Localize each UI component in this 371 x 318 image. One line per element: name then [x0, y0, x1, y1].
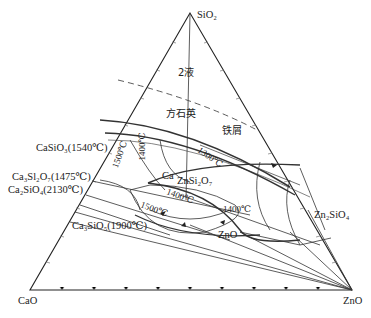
- isotherm-1400-a: 1400℃: [138, 132, 147, 160]
- ternary-diagram: SiO₂ CaO ZnO 2液 方石英 铁屑 CaSiO₃(1540℃) Ca₃…: [0, 0, 371, 318]
- label-ca3sio5: Ca₃SiO₅(1900℃): [72, 221, 147, 232]
- label-casio3: CaSiO₃(1540℃): [36, 143, 107, 154]
- region-cristobalite: 方石英: [166, 109, 196, 119]
- vertex-zno: ZnO: [343, 296, 362, 307]
- vertex-cao: CaO: [18, 296, 37, 307]
- tick-marks: [46, 42, 336, 290]
- label-znsi2o7: ZnSi₂O₇: [177, 176, 212, 187]
- label-ca2sio4: Ca₂SiO₄(2130℃): [8, 185, 83, 196]
- label-zno-field: ZnO: [218, 230, 237, 241]
- region-two-liquid: 2液: [178, 68, 194, 78]
- vertex-sio2: SiO₂: [197, 10, 217, 21]
- label-ca3si2o7: Ca₃Sl₂O₇(1475℃): [12, 172, 91, 183]
- two-liquid-line: [186, 14, 190, 200]
- diagram-canvas: [0, 0, 371, 318]
- label-zn2sio4: Zn₂SiO₄: [314, 210, 349, 221]
- isotherm-1400-c: 1400℃: [223, 205, 251, 214]
- label-ca-part: Ca: [162, 171, 174, 182]
- region-tridymite: 铁屑: [222, 126, 242, 136]
